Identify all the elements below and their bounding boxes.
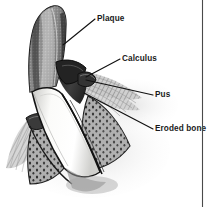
illustration-canvas: Plaque Calculus Pus Eroded bone [0, 0, 216, 207]
dental-illustration-figure: Plaque Calculus Pus Eroded bone [0, 0, 216, 207]
leader-line-plaque [63, 19, 95, 45]
label-eroded-bone: Eroded bone [155, 124, 206, 133]
label-plaque: Plaque [97, 14, 125, 23]
leader-line-calculus [86, 59, 120, 77]
label-pus: Pus [155, 90, 171, 99]
label-calculus: Calculus [122, 54, 157, 63]
